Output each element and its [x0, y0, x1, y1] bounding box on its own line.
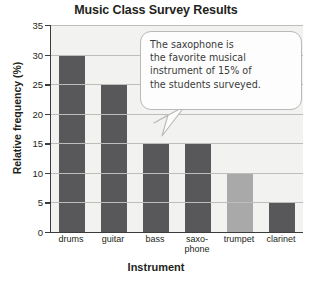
x-axis-tick-label-line: clarinet: [261, 234, 301, 244]
y-axis-tick-label: 25: [32, 79, 43, 90]
saxophone-callout: The saxophone isthe favorite musicalinst…: [140, 31, 302, 110]
y-axis-tick-label: 15: [32, 138, 43, 149]
gridline: [51, 25, 303, 26]
callout-line: the favorite musical: [150, 51, 293, 64]
y-axis-tick-label: 35: [32, 20, 43, 31]
bar: [185, 143, 211, 232]
bar-chart: Music Class Survey Results Relative freq…: [0, 0, 312, 283]
gridline: [51, 173, 303, 174]
x-axis-tick-label-line: saxo-: [177, 234, 217, 244]
x-axis-tick-label-line: guitar: [93, 234, 133, 244]
y-axis-title: Relative frequency (%): [11, 23, 23, 213]
x-axis-tick-label: guitar: [93, 234, 133, 262]
y-axis: Relative frequency (%) 05101520253035: [0, 0, 50, 232]
y-axis-tick-label: 20: [32, 108, 43, 119]
y-axis-tick-label: 0: [38, 227, 43, 238]
x-axis-tick-label-line: phone: [177, 244, 217, 254]
gridline: [51, 114, 303, 115]
gridline: [51, 202, 303, 203]
x-axis-tick-label: drums: [51, 234, 91, 262]
callout-line: The saxophone is: [150, 38, 293, 51]
bar: [101, 84, 127, 232]
callout-text: The saxophone isthe favorite musicalinst…: [150, 38, 293, 91]
x-axis-tick-label: trumpet: [219, 234, 259, 262]
x-axis-tick-label-line: bass: [135, 234, 175, 244]
bar: [143, 143, 169, 232]
x-axis-tick-label: clarinet: [261, 234, 301, 262]
callout-line: the students surveyed.: [150, 78, 293, 91]
callout-line: instrument of 15% of: [150, 64, 293, 77]
x-axis-tick-label: saxo-phone: [177, 234, 217, 262]
y-axis-tick-label: 10: [32, 167, 43, 178]
x-axis-title: Instrument: [0, 261, 312, 273]
x-axis-tick-label-line: trumpet: [219, 234, 259, 244]
y-axis-tick-label: 30: [32, 49, 43, 60]
y-axis-tick-label: 5: [38, 197, 43, 208]
bar: [269, 202, 295, 232]
gridline: [51, 143, 303, 144]
x-axis-tick-label: bass: [135, 234, 175, 262]
x-axis-tick-label-line: drums: [51, 234, 91, 244]
x-axis-tick-labels: drumsguitarbasssaxo-phonetrumpetclarinet: [50, 234, 302, 262]
